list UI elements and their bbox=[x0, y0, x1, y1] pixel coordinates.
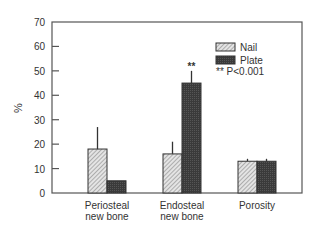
legend-swatch-plate bbox=[216, 56, 235, 64]
legend-label: Nail bbox=[240, 42, 257, 53]
y-tick-label: 0 bbox=[39, 188, 45, 199]
legend-note: ** P<0.001 bbox=[216, 66, 265, 77]
bar-plate bbox=[107, 181, 126, 193]
y-tick-label: 20 bbox=[34, 139, 46, 150]
y-tick-label: 40 bbox=[34, 90, 46, 101]
x-tick-label: new bone bbox=[85, 211, 129, 222]
x-tick-label: new bone bbox=[160, 211, 204, 222]
x-tick-label: Periosteal bbox=[85, 200, 129, 211]
legend-swatch-nail bbox=[216, 43, 235, 51]
y-tick-label: 30 bbox=[34, 115, 46, 126]
y-tick-label: 50 bbox=[34, 66, 46, 77]
x-tick-label: Endosteal bbox=[160, 200, 204, 211]
legend: NailPlate** P<0.001 bbox=[216, 42, 265, 77]
bar-nail bbox=[88, 149, 107, 193]
x-tick-label: Porosity bbox=[239, 200, 275, 211]
y-axis: 010203040506070 bbox=[34, 17, 59, 199]
y-axis-label: % bbox=[12, 103, 24, 113]
legend-label: Plate bbox=[240, 55, 263, 66]
y-tick-label: 10 bbox=[34, 164, 46, 175]
bars: ** bbox=[88, 61, 276, 193]
bar-plate bbox=[257, 161, 276, 193]
significance-marker: ** bbox=[188, 61, 196, 72]
bar-plate bbox=[182, 83, 201, 193]
x-axis-labels: Periostealnew boneEndostealnew bonePoros… bbox=[85, 200, 275, 222]
bar-chart: 010203040506070 ** Periostealnew boneEnd… bbox=[0, 0, 318, 236]
bar-nail bbox=[163, 154, 182, 193]
bar-nail bbox=[238, 161, 257, 193]
y-tick-label: 60 bbox=[34, 41, 46, 52]
y-tick-label: 70 bbox=[34, 17, 46, 28]
